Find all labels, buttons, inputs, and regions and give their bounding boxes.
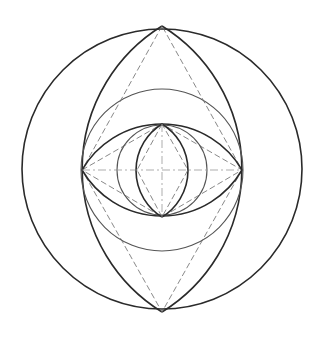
pupil-dashed-diamond <box>137 124 188 217</box>
large-vesica-left-arc <box>82 26 162 312</box>
pupil-left-arc <box>136 124 162 217</box>
eye-geometry-diagram <box>0 0 321 337</box>
large-vesica-right-arc <box>162 26 242 312</box>
eye-dashed-diamond <box>82 124 242 217</box>
pupil-right-arc <box>162 124 188 217</box>
